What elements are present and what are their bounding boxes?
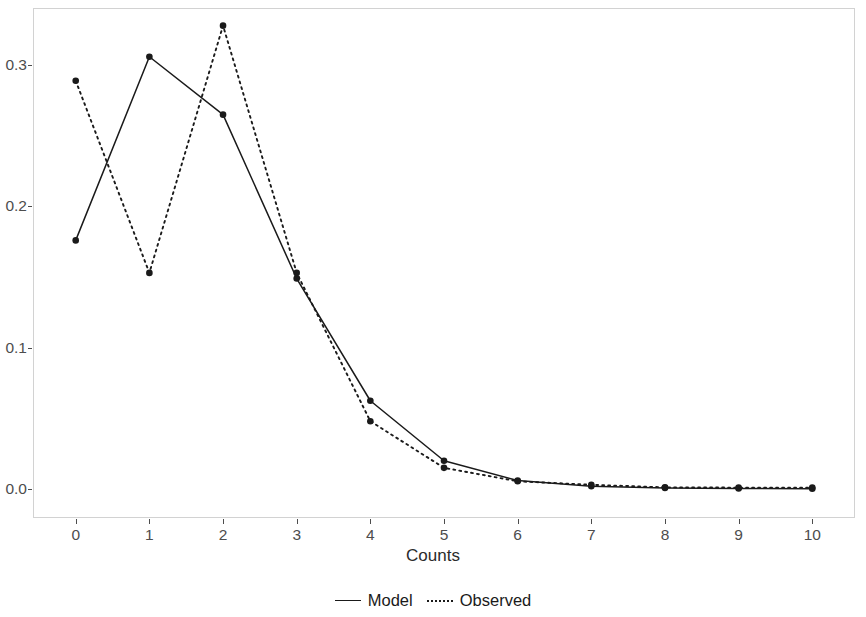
y-axis: 0.00.10.20.3 — [0, 0, 27, 617]
x-axis-tick-label: 4 — [366, 527, 375, 543]
x-axis-tick-mark — [812, 519, 813, 524]
x-axis-tick-label: 5 — [440, 527, 449, 543]
x-axis-tick-mark — [76, 519, 77, 524]
x-axis-tick-mark — [518, 519, 519, 524]
x-axis-tick-mark — [149, 519, 150, 524]
x-axis-tick-label: 2 — [219, 527, 228, 543]
chart-legend: ModelObserved — [0, 592, 866, 609]
x-axis-tick-label: 8 — [661, 527, 670, 543]
x-axis-tick-mark — [591, 519, 592, 524]
plot-panel — [33, 8, 855, 518]
y-axis-tick-label: 0.0 — [0, 481, 27, 497]
x-axis-tick-mark — [739, 519, 740, 524]
y-axis-tick-mark — [28, 489, 32, 490]
x-axis-title: Counts — [0, 547, 866, 564]
x-axis-tick-label: 10 — [804, 527, 821, 543]
x-axis-tick-mark — [444, 519, 445, 524]
x-axis-tick-mark — [297, 519, 298, 524]
x-axis-tick-label: 0 — [71, 527, 80, 543]
legend-label: Model — [368, 592, 413, 609]
y-axis-tick-mark — [28, 206, 32, 207]
y-axis-tick-mark — [28, 348, 32, 349]
legend-label: Observed — [460, 592, 532, 609]
y-axis-tick-mark — [28, 65, 32, 66]
x-axis-tick-label: 1 — [145, 527, 154, 543]
x-axis-tick-label: 9 — [734, 527, 743, 543]
legend-entry-model: Model — [335, 592, 413, 609]
x-axis-tick-label: 6 — [513, 527, 522, 543]
x-axis-tick-label: 3 — [292, 527, 301, 543]
x-axis-tick-label: 7 — [587, 527, 596, 543]
y-axis-tick-label: 0.2 — [0, 199, 27, 215]
legend-entry-observed: Observed — [427, 592, 532, 609]
chart-figure: 0.00.10.20.3 012345678910 Counts ModelOb… — [0, 0, 866, 617]
legend-key-dotted-line-icon — [427, 594, 453, 606]
legend-key-solid-line-icon — [335, 594, 361, 606]
x-axis-tick-mark — [370, 519, 371, 524]
y-axis-tick-label: 0.3 — [0, 57, 27, 73]
x-axis-tick-mark — [223, 519, 224, 524]
y-axis-tick-label: 0.1 — [0, 340, 27, 356]
x-axis-tick-mark — [665, 519, 666, 524]
